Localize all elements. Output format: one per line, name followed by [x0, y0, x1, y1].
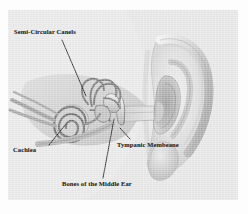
- ear-illustration: [8, 10, 238, 200]
- label-semi-circular-canals: Semi-Circular Canels: [14, 28, 76, 35]
- label-bones-of-the-middle-ear: Bones of the Middle Ear: [62, 180, 132, 187]
- label-tympanic-membrane: Tympanic Membeane: [117, 141, 179, 148]
- ear-anatomy-figure: Semi-Circular Canels Cachlea Bones of th…: [0, 0, 248, 214]
- label-cochlea: Cachlea: [13, 146, 36, 153]
- scanned-image-plate: [8, 10, 238, 200]
- ear-canal: [120, 106, 154, 122]
